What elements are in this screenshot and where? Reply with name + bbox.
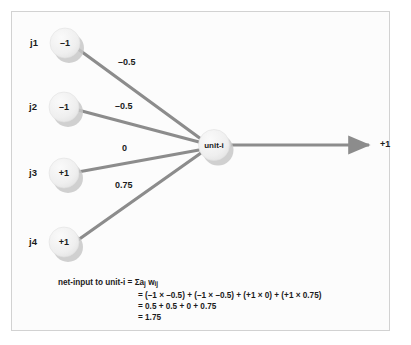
formula-line-1: net-input to unit-i = Σaj wij xyxy=(58,277,321,290)
node-value-j2: –1 xyxy=(49,102,79,112)
formula-sub-w: ij xyxy=(155,280,159,287)
weight-label-j4: 0.75 xyxy=(115,180,133,190)
formula-line-3: = 0.5 + 0.5 + 0 + 0.75 xyxy=(58,301,321,312)
node-label-j1: j1 xyxy=(30,37,38,48)
connection-j4 xyxy=(78,153,201,240)
formula-equals: = xyxy=(125,278,134,287)
connection-lines xyxy=(78,49,201,240)
formula-sigma-a: Σa xyxy=(135,278,144,287)
node-label-j3: j3 xyxy=(29,167,37,178)
formula-line-1-lhs: net-input to unit-i xyxy=(58,278,125,287)
output-value-label: +1 xyxy=(380,139,390,149)
node-value-j4: +1 xyxy=(49,237,79,247)
node-label-j4: j4 xyxy=(29,236,37,247)
formula-line-4-text: = 1.75 xyxy=(138,313,161,322)
weight-label-j1: –0.5 xyxy=(118,57,136,67)
node-value-j3: +1 xyxy=(49,168,79,178)
formula-line-2: = (–1 × –0.5) + (–1 × –0.5) + (+1 × 0) +… xyxy=(58,290,321,301)
weight-label-j3: 0 xyxy=(122,143,127,153)
formula-line-3-text: = 0.5 + 0.5 + 0 + 0.75 xyxy=(138,302,216,311)
figure-canvas: j1 –1 j2 –1 j3 +1 j4 +1 unit-i –0.5 –0.5… xyxy=(0,0,411,345)
net-input-formula: net-input to unit-i = Σaj wij = (–1 × –0… xyxy=(58,277,321,324)
formula-line-4: = 1.75 xyxy=(58,312,321,323)
weight-label-j2: –0.5 xyxy=(115,101,133,111)
node-label-j2: j2 xyxy=(29,101,37,112)
node-label-unit-i: unit-i xyxy=(197,141,231,150)
node-value-j1: –1 xyxy=(50,38,80,48)
formula-line-2-text: = (–1 × –0.5) + (–1 × –0.5) + (+1 × 0) +… xyxy=(138,291,321,300)
